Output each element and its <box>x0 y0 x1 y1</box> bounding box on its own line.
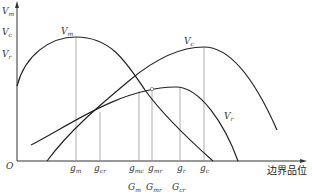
x-label-gc: gc <box>200 163 210 174</box>
origin-label: O <box>6 161 14 171</box>
curve-vr <box>31 87 238 161</box>
y-axis-arrow-icon <box>15 1 19 8</box>
intersection-marker <box>150 87 153 90</box>
x-label-gcr: gcr <box>94 163 107 174</box>
y-label-vc: Vc <box>2 27 13 38</box>
y-label-vr: Vr <box>2 49 13 60</box>
x-label-gmc: gmc <box>129 163 144 174</box>
bottom-label-gm: Gm <box>128 182 141 193</box>
x-axis-title: 边界品位 <box>267 164 307 176</box>
bottom-label-gmr: Gmr <box>146 182 163 193</box>
curve-label-vm: Vm <box>61 26 74 37</box>
curve-vc <box>47 47 277 161</box>
curve-label-vr: Vr <box>224 111 235 122</box>
x-label-gr: gr <box>177 163 187 174</box>
y-label-vm: Vm <box>2 6 15 17</box>
x-label-gm: gm <box>70 163 82 174</box>
x-axis-arrow-icon <box>300 159 307 163</box>
bottom-label-gcr: Gcr <box>172 182 187 193</box>
x-label-gmr: gmr <box>148 163 163 174</box>
curve-vm <box>17 37 213 161</box>
diagram: Vm Vc Vr O Vm Vc Vr gm gcr gmc gmr gr gc… <box>0 0 312 195</box>
curve-label-vc: Vc <box>184 36 195 47</box>
guide-lines <box>76 37 204 161</box>
